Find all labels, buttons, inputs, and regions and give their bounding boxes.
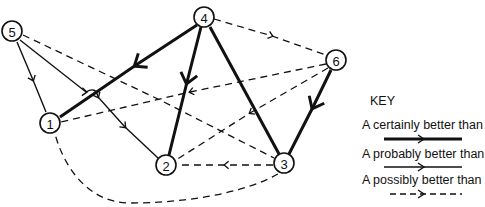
svg-text:4: 4 — [200, 11, 207, 26]
edge-4-to-3 — [210, 27, 279, 154]
node-1: 1 — [40, 113, 60, 133]
legend-label-possibly: A possibly better than B — [362, 173, 485, 187]
legend-label-certainly: A certainly better than B — [362, 118, 485, 132]
edge-6-to-1 — [61, 64, 326, 122]
node-5: 5 — [2, 21, 22, 41]
svg-text:1: 1 — [46, 117, 53, 132]
svg-text:5: 5 — [8, 25, 15, 40]
node-3: 3 — [274, 153, 294, 173]
edge-5-to-1 — [17, 42, 46, 112]
legend-swatch-thin-solid — [362, 162, 485, 172]
svg-text:6: 6 — [332, 54, 339, 69]
node-6: 6 — [326, 50, 346, 70]
legend-swatch-thick-solid — [362, 134, 485, 144]
legend-label-probably: A probably better than B — [362, 147, 485, 161]
svg-text:2: 2 — [162, 159, 169, 174]
edge-5-to-3 — [23, 35, 274, 158]
legend-swatch-dashed — [362, 189, 485, 199]
edge-4-to-6 — [214, 19, 326, 55]
edge-6-to-3 — [289, 70, 331, 154]
node-2: 2 — [156, 155, 176, 175]
edge-4-to-1 — [60, 25, 197, 117]
legend-title: KEY — [370, 94, 395, 108]
edges-certainly — [60, 25, 331, 155]
svg-text:3: 3 — [280, 157, 287, 172]
node-4: 4 — [194, 7, 214, 27]
